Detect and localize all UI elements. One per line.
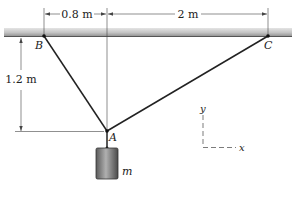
mass-block: [96, 148, 118, 179]
y-axis-label: y: [199, 103, 206, 114]
x-axis-label: x: [239, 142, 245, 153]
dimension-label-2m: 2 m: [178, 8, 199, 21]
arrow-head: [108, 12, 113, 15]
point-label-b: B: [34, 39, 43, 52]
cable-ab: [44, 36, 107, 131]
arrow-head: [45, 12, 50, 15]
arrow-head: [19, 38, 22, 43]
dimension-label-1.2m: 1.2 m: [5, 73, 37, 86]
point-label-a: A: [108, 131, 117, 144]
joint-b: [42, 34, 46, 38]
mass-label: m: [122, 165, 132, 178]
arrow-head: [262, 12, 267, 15]
statics-diagram: 0.8 m 2 m 1.2 m B C A m y x: [0, 0, 298, 197]
cable-ac: [107, 36, 268, 131]
arrow-head: [19, 126, 22, 131]
ceiling: [4, 28, 292, 37]
point-label-c: C: [264, 39, 273, 52]
joint-c: [266, 34, 270, 38]
arrow-head: [101, 12, 106, 15]
dimension-label-0.8m: 0.8 m: [61, 8, 93, 21]
